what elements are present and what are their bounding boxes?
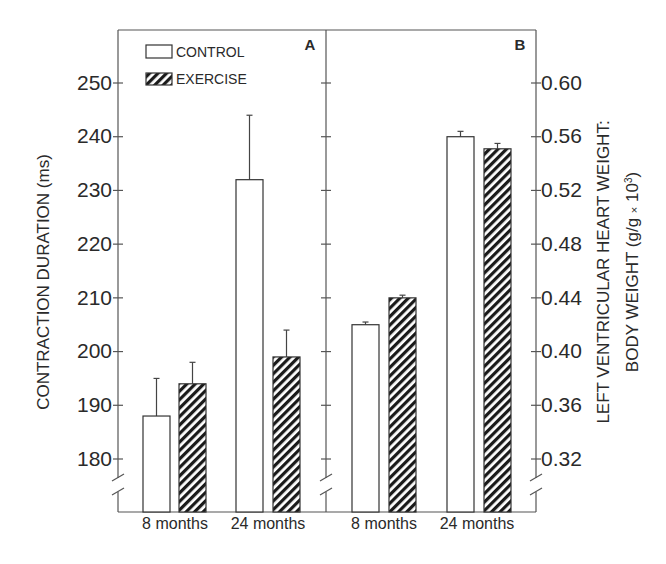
x-label-a-24m: 24 months [231, 515, 306, 532]
bar-exercise-8-months [389, 298, 416, 512]
legend-label-exercise: EXERCISE [176, 71, 247, 87]
bar-exercise-24-months [484, 149, 511, 512]
bars [143, 115, 511, 512]
panel-label-a: A [305, 36, 316, 53]
left-tick-label: 230 [77, 178, 112, 201]
right-axis-title-line1: LEFT VENTRICULAR HEART WEIGHT: [594, 120, 613, 423]
right-tick-label: 0.52 [541, 178, 582, 201]
right-tick-label: 0.48 [541, 232, 582, 255]
x-axis-labels: 8 months 24 months 8 months 24 months [142, 515, 514, 532]
x-label-b-8m: 8 months [351, 515, 417, 532]
bar-exercise-24-months [273, 357, 300, 512]
right-tick-label: 0.56 [541, 124, 582, 147]
left-axis-ticks: 180 190 200 210 220 230 240 250 [77, 71, 112, 470]
right-axis-ticks: 0.32 0.36 0.40 0.44 0.48 0.52 0.56 0.60 [541, 71, 582, 470]
left-tick-label: 190 [77, 393, 112, 416]
left-tick-label: 220 [77, 232, 112, 255]
right-tick-label: 0.36 [541, 393, 582, 416]
bar-exercise-8-months [179, 384, 206, 512]
right-axis-title-line2: BODY WEIGHT (g/g × 103) [623, 172, 642, 372]
legend: CONTROL EXERCISE [146, 44, 247, 87]
left-tick-label: 200 [77, 339, 112, 362]
axis-break-marks [112, 474, 542, 495]
legend-label-control: CONTROL [176, 44, 245, 60]
legend-swatch-control [146, 45, 172, 58]
left-tick-label: 250 [77, 71, 112, 94]
right-tick-label: 0.44 [541, 286, 582, 309]
right-tick-label: 0.60 [541, 71, 582, 94]
tick-marks [113, 83, 541, 459]
bar-control-24-months [447, 137, 474, 512]
legend-swatch-exercise [146, 73, 172, 85]
right-tick-label: 0.32 [541, 447, 582, 470]
bar-chart: 180 190 200 210 220 230 240 250 0.32 0.3… [0, 0, 666, 564]
bar-control-8-months [352, 325, 379, 512]
panel-label-b: B [515, 36, 526, 53]
left-tick-label: 180 [77, 447, 112, 470]
bar-control-8-months [143, 416, 170, 512]
left-tick-label: 240 [77, 124, 112, 147]
x-label-b-24m: 24 months [440, 515, 515, 532]
left-tick-label: 210 [77, 286, 112, 309]
x-label-a-8m: 8 months [142, 515, 208, 532]
left-axis-title: CONTRACTION DURATION (ms) [34, 154, 53, 410]
bar-control-24-months [236, 180, 263, 512]
right-tick-label: 0.40 [541, 339, 582, 362]
